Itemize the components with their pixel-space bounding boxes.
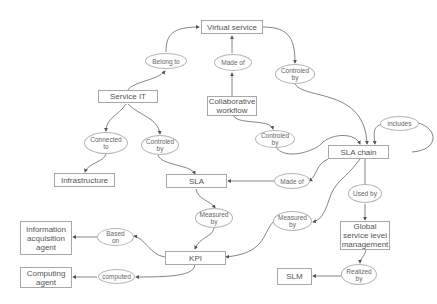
relation-measured-by-2[interactable]: Measured by	[273, 211, 312, 231]
relation-belong-to[interactable]: Belong to	[145, 53, 187, 69]
relation-computed[interactable]: computed	[98, 269, 135, 284]
relation-realized-by[interactable]: Realized by	[341, 264, 377, 285]
relation-based-on[interactable]: Based on	[97, 228, 134, 246]
concept-service-it[interactable]: Service IT	[98, 90, 158, 103]
concept-global-service-level-management[interactable]: Global service level management	[340, 221, 390, 250]
concept-sla[interactable]: SLA	[166, 174, 227, 188]
relation-controled-by-1[interactable]: Controled by	[275, 64, 315, 84]
relation-measured-by-1[interactable]: Measured by	[195, 208, 233, 228]
relation-made-of-2[interactable]: Made of	[274, 173, 310, 189]
concept-information-acquisition-agent[interactable]: Information acquisition agent	[20, 221, 72, 255]
concept-infrastructure[interactable]: Infrastructure	[54, 173, 115, 187]
concept-slm[interactable]: SLM	[277, 268, 312, 285]
concept-sla-chain[interactable]: SLA chain	[328, 145, 389, 159]
relation-controled-by-3[interactable]: Controled by	[141, 135, 179, 155]
relation-includes[interactable]: includes	[380, 116, 419, 131]
concept-collaborative-workflow[interactable]: Collaborative workflow	[207, 96, 257, 116]
concept-kpi[interactable]: KPI	[165, 251, 226, 265]
relation-used-by[interactable]: Used by	[348, 184, 382, 203]
relation-made-of-1[interactable]: Made of	[214, 54, 252, 71]
concept-virtual-service[interactable]: Virtual service	[201, 20, 263, 34]
relation-controled-by-2[interactable]: Controled by	[255, 130, 295, 148]
relation-connected-to[interactable]: Connected to	[84, 132, 128, 154]
concept-computing-agent[interactable]: Computing agent	[20, 267, 72, 288]
